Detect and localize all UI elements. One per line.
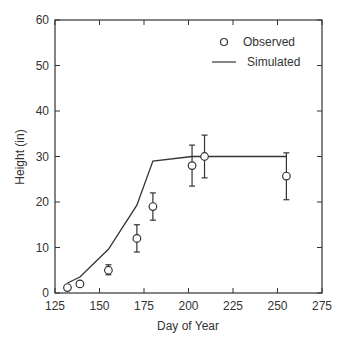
y-tick-label: 0	[42, 286, 49, 300]
y-tick-label: 50	[36, 59, 50, 73]
x-tick-label: 150	[89, 299, 109, 313]
legend: Observed Simulated	[212, 35, 300, 69]
x-tick-label: 250	[267, 299, 287, 313]
observed-point	[188, 162, 196, 170]
y-tick-label: 20	[36, 195, 50, 209]
simulated-series-line	[67, 157, 286, 283]
observed-point	[64, 284, 72, 292]
x-tick-label: 125	[45, 299, 65, 313]
observed-point	[201, 153, 209, 161]
x-tick-label: 275	[312, 299, 332, 313]
observed-point	[105, 266, 113, 274]
open-circle-marker-icon	[221, 39, 228, 46]
y-tick-label: 30	[36, 150, 50, 164]
observed-point	[76, 280, 84, 288]
y-tick-label: 10	[36, 241, 50, 255]
y-tick-label: 60	[36, 13, 50, 27]
x-tick-label: 175	[134, 299, 154, 313]
observed-point	[283, 172, 291, 180]
simulated-line	[67, 157, 286, 283]
observed-point	[149, 203, 157, 211]
x-tick-label: 200	[178, 299, 198, 313]
y-tick-label: 40	[36, 104, 50, 118]
y-axis-title: Height (in)	[13, 129, 27, 184]
observed-point	[133, 235, 141, 243]
legend-label-observed: Observed	[243, 35, 295, 49]
legend-label-simulated: Simulated	[247, 55, 300, 69]
x-axis-title: Day of Year	[157, 319, 219, 333]
height-vs-day-chart: 125150175200225250275 0102030405060 Day …	[0, 0, 343, 347]
x-tick-label: 225	[223, 299, 243, 313]
